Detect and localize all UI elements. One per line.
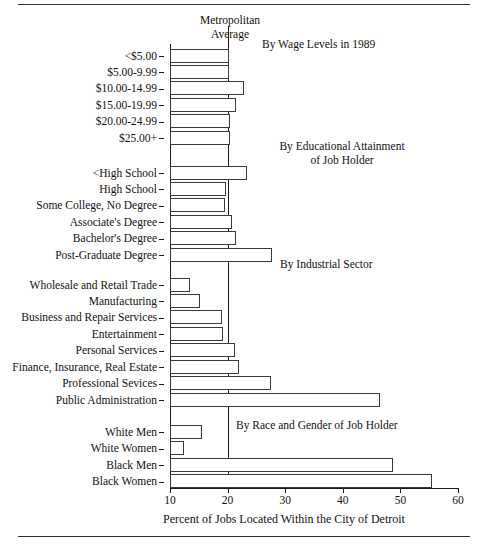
tick-dash-icon bbox=[159, 318, 164, 319]
section-header-wage: By Wage Levels in 1989 bbox=[262, 38, 375, 52]
category-label: $10.00-14.99 bbox=[6, 82, 170, 94]
x-tick-label-20: 20 bbox=[208, 494, 248, 507]
bar bbox=[170, 458, 393, 472]
bar bbox=[170, 393, 380, 407]
category-label: White Women bbox=[6, 442, 170, 454]
tick-dash-icon bbox=[159, 206, 164, 207]
bar bbox=[170, 166, 247, 180]
category-label: Black Women bbox=[6, 475, 170, 487]
category-label: Public Administration bbox=[6, 394, 170, 406]
bar bbox=[170, 248, 272, 262]
section-header-industry: By Industrial Sector bbox=[280, 258, 373, 272]
bar bbox=[170, 376, 271, 390]
tick-dash-icon bbox=[159, 334, 164, 335]
category-label: Some College, No Degree bbox=[6, 199, 170, 211]
x-tick-label-40: 40 bbox=[323, 494, 363, 507]
tick-dash-icon bbox=[159, 285, 164, 286]
bar bbox=[170, 278, 190, 292]
tick-dash-icon bbox=[159, 239, 164, 240]
tick-dash-icon bbox=[159, 384, 164, 385]
metropolitan-average-line1: Metropolitan bbox=[168, 14, 292, 28]
bar bbox=[170, 198, 225, 212]
tick-dash-icon bbox=[159, 189, 164, 190]
tick-dash-icon bbox=[159, 222, 164, 223]
category-label: Bachelor's Degree bbox=[6, 232, 170, 244]
category-label: Business and Repair Services bbox=[6, 311, 170, 323]
tick-dash-icon bbox=[159, 367, 164, 368]
bar bbox=[170, 360, 239, 374]
bar bbox=[170, 114, 230, 128]
tick-dash-icon bbox=[159, 255, 164, 256]
tick-dash-icon bbox=[159, 351, 164, 352]
bottom-rule bbox=[18, 536, 470, 537]
tick-dash-icon bbox=[159, 105, 164, 106]
category-label: <$5.00 bbox=[6, 50, 170, 62]
bar bbox=[170, 327, 223, 341]
tick-dash-icon bbox=[159, 301, 164, 302]
bar bbox=[170, 65, 229, 79]
bar bbox=[170, 310, 222, 324]
top-rule bbox=[18, 4, 470, 5]
section-header-race-gender: By Race and Gender of Job Holder bbox=[236, 419, 398, 433]
tick-dash-icon bbox=[159, 56, 164, 57]
x-tick-label-10: 10 bbox=[150, 494, 190, 507]
section-header-education-line1: By Educational Attainment bbox=[242, 140, 442, 154]
bar bbox=[170, 343, 235, 357]
category-label: Personal Services bbox=[6, 344, 170, 356]
category-label: $25.00+ bbox=[6, 132, 170, 144]
figure-canvas: Metropolitan Average 102030405060 <$5.00… bbox=[0, 0, 488, 547]
x-tick-label-50: 50 bbox=[380, 494, 420, 507]
bar bbox=[170, 294, 200, 308]
bar bbox=[170, 131, 230, 145]
bar bbox=[170, 441, 184, 455]
category-label: Finance, Insurance, Real Estate bbox=[6, 361, 170, 373]
bar bbox=[170, 215, 232, 229]
tick-dash-icon bbox=[159, 138, 164, 139]
category-label: Wholesale and Retail Trade bbox=[6, 279, 170, 291]
x-tick-20 bbox=[228, 488, 229, 493]
category-label: $20.00-24.99 bbox=[6, 115, 170, 127]
tick-dash-icon bbox=[159, 173, 164, 174]
tick-dash-icon bbox=[159, 122, 164, 123]
x-tick-30 bbox=[285, 488, 286, 493]
category-label: High School bbox=[6, 183, 170, 195]
x-axis-title: Percent of Jobs Located Within the City … bbox=[84, 512, 484, 527]
category-label: $5.00-9.99 bbox=[6, 66, 170, 78]
bar bbox=[170, 49, 229, 63]
tick-dash-icon bbox=[159, 449, 164, 450]
category-label: Entertainment bbox=[6, 328, 170, 340]
section-header-education-line2: of Job Holder bbox=[242, 154, 442, 168]
tick-dash-icon bbox=[159, 465, 164, 466]
category-label: <High School bbox=[6, 167, 170, 179]
category-label: Post-Graduate Degree bbox=[6, 249, 170, 261]
x-tick-60 bbox=[458, 488, 459, 493]
category-label: Associate's Degree bbox=[6, 216, 170, 228]
category-label: White Men bbox=[6, 426, 170, 438]
x-tick-10 bbox=[170, 488, 171, 493]
bar bbox=[170, 425, 202, 439]
x-tick-40 bbox=[343, 488, 344, 493]
category-label: Professional Sevices bbox=[6, 377, 170, 389]
bar bbox=[170, 81, 244, 95]
tick-dash-icon bbox=[159, 432, 164, 433]
tick-dash-icon bbox=[159, 89, 164, 90]
x-tick-label-30: 30 bbox=[265, 494, 305, 507]
x-tick-50 bbox=[400, 488, 401, 493]
bar bbox=[170, 182, 226, 196]
tick-dash-icon bbox=[159, 400, 164, 401]
bar bbox=[170, 231, 236, 245]
category-label: Black Men bbox=[6, 459, 170, 471]
x-tick-label-60: 60 bbox=[438, 494, 478, 507]
bar bbox=[170, 98, 236, 112]
category-label: $15.00-19.99 bbox=[6, 99, 170, 111]
category-label: Manufacturing bbox=[6, 295, 170, 307]
metropolitan-average-label: Metropolitan Average bbox=[168, 14, 292, 41]
tick-dash-icon bbox=[159, 72, 164, 73]
bar bbox=[170, 474, 432, 488]
section-header-education: By Educational Attainment of Job Holder bbox=[242, 140, 442, 167]
tick-dash-icon bbox=[159, 482, 164, 483]
